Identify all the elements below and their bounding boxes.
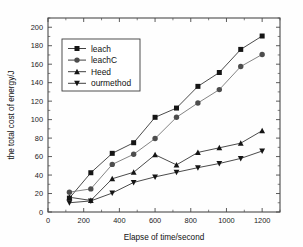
- data-point-marker: [75, 46, 80, 51]
- data-point-marker: [174, 162, 180, 168]
- y-tick-label: 160: [31, 60, 43, 69]
- y-tick-label: 180: [31, 41, 43, 50]
- data-point-marker: [260, 34, 265, 39]
- x-tick-label: 1200: [254, 216, 270, 225]
- data-point-marker: [67, 189, 72, 194]
- legend-label-leach: leach: [91, 44, 111, 54]
- chart-legend: leachleachCHeedourmethod: [62, 39, 140, 91]
- data-point-marker: [153, 115, 158, 120]
- legend-label-ourmethod: ourmethod: [91, 78, 131, 88]
- data-point-marker: [131, 140, 136, 145]
- x-axis-tick-labels: 020040060080010001200: [46, 216, 270, 225]
- data-point-marker: [110, 162, 115, 167]
- data-point-marker: [152, 152, 158, 158]
- y-tick-label: 20: [35, 189, 43, 198]
- data-point-marker: [131, 180, 137, 186]
- legend-label-leachc: leachC: [91, 55, 117, 65]
- x-tick-label: 400: [113, 216, 125, 225]
- series-line: [69, 151, 262, 203]
- chart-container: 020040060080010001200 020406080100120140…: [0, 0, 303, 247]
- x-tick-label: 200: [78, 216, 90, 225]
- y-tick-label: 40: [35, 171, 43, 180]
- data-point-marker: [88, 186, 93, 191]
- data-point-marker: [174, 106, 179, 111]
- x-tick-label: 800: [185, 216, 197, 225]
- data-point-marker: [109, 191, 115, 197]
- y-axis-title: the total cost of energy/J: [7, 70, 16, 159]
- data-point-marker: [67, 200, 73, 206]
- series-heed: [67, 128, 266, 203]
- data-point-marker: [238, 47, 243, 52]
- data-point-marker: [238, 140, 244, 146]
- data-point-marker: [259, 149, 265, 155]
- y-tick-label: 0: [39, 208, 43, 217]
- data-point-marker: [195, 84, 200, 89]
- data-point-marker: [174, 115, 179, 120]
- data-point-marker: [238, 64, 243, 69]
- series-ourmethod: [67, 149, 266, 206]
- data-point-marker: [195, 100, 200, 105]
- y-axis-tick-labels: 020406080100120140160180200: [31, 23, 43, 217]
- data-point-marker: [217, 87, 222, 92]
- data-point-marker: [152, 136, 157, 141]
- data-point-marker: [88, 170, 93, 175]
- y-tick-label: 60: [35, 152, 43, 161]
- x-tick-label: 1000: [218, 216, 234, 225]
- y-tick-label: 200: [31, 23, 43, 32]
- x-tick-label: 0: [46, 216, 50, 225]
- data-point-marker: [259, 52, 264, 57]
- legend-label-heed: Heed: [91, 67, 111, 77]
- y-tick-label: 140: [31, 78, 43, 87]
- line-chart: 020040060080010001200 020406080100120140…: [0, 0, 303, 247]
- x-tick-label: 600: [149, 216, 161, 225]
- data-point-marker: [259, 128, 265, 133]
- x-axis-title: Elapse of time/second: [124, 233, 205, 242]
- data-point-marker: [110, 151, 115, 156]
- y-tick-label: 80: [35, 134, 43, 143]
- data-point-marker: [74, 57, 79, 62]
- data-point-marker: [217, 70, 222, 75]
- y-tick-label: 120: [31, 97, 43, 106]
- y-tick-label: 100: [31, 115, 43, 124]
- data-point-marker: [131, 152, 136, 157]
